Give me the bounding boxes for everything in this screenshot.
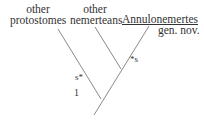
branch-nemerteans (95, 27, 121, 69)
taxon-protostomes: other protostomes (10, 4, 66, 26)
taxon-protostomes-line2: protostomes (10, 15, 66, 26)
asterisk-icon: * (79, 72, 84, 82)
taxon-nemerteans: other nemerteans (70, 4, 120, 26)
branch-mark-annulonemertes: *s (130, 55, 138, 64)
branch-protostomes (58, 29, 101, 99)
node-label: 1 (74, 88, 79, 97)
branch-mark-protostomes: s* (75, 73, 83, 82)
taxon-annulonemertes-note: gen. nov. (158, 25, 200, 36)
taxon-nemerteans-line2: nemerteans (70, 15, 120, 26)
branch-mark-label: s (135, 54, 139, 64)
